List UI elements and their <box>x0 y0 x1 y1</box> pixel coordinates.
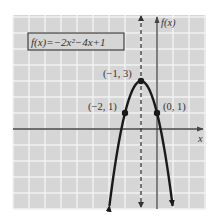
point-0-1-label: (0, 1) <box>163 101 186 113</box>
x-axis-label: x <box>197 133 203 144</box>
point-neg2-1-label: (−2, 1) <box>88 101 117 113</box>
point-0-1 <box>154 110 160 116</box>
vertex-label: (−1, 3) <box>103 68 132 80</box>
point-neg2-1 <box>122 110 128 116</box>
vertex-point <box>138 78 144 84</box>
function-label: f(x)=−2x²−4x+1 <box>31 36 106 49</box>
y-axis-label: f(x) <box>161 17 176 29</box>
parabola-chart: x f(x) (−1, 3) (−2, 1) (0, 1) f(x)=−2x²−… <box>0 0 215 223</box>
